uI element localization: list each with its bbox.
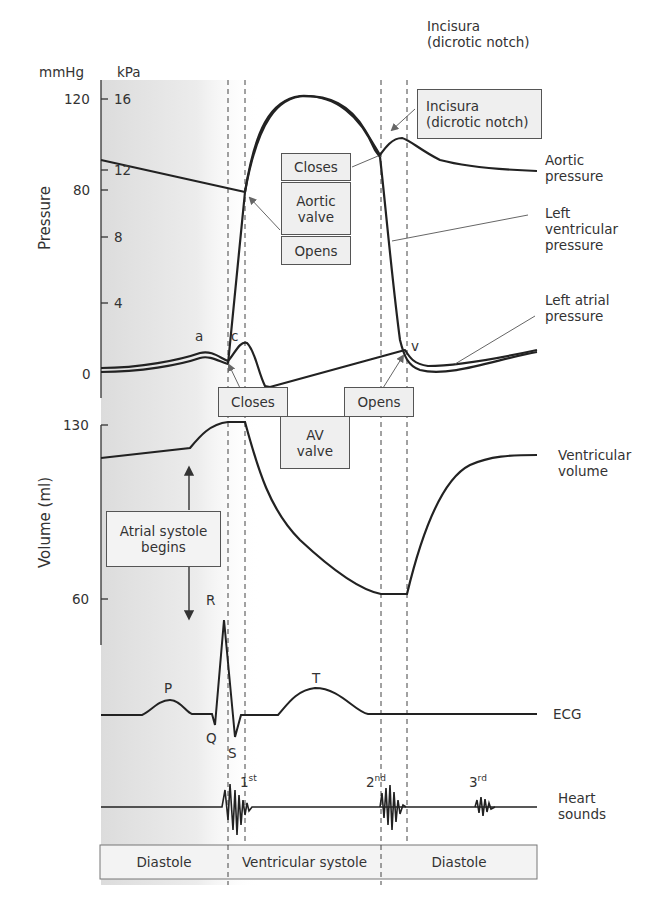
first-sound-label: 1st [240,770,257,790]
ecg-t-label: T [312,670,320,686]
phase-ventricular-systole: Ventricular systole [228,845,381,879]
la-label-pointer [455,316,535,364]
phase-diastole-1: Diastole [100,845,228,879]
third-sound-label: 3rd [469,770,487,790]
incisura-box: Incisura (dicrotic notch) [417,89,542,139]
volume-tick-60: 60 [72,591,89,607]
lv-label-pointer [392,215,528,241]
ecg-label: ECG [553,706,581,722]
kpa-tick-4: 4 [114,295,123,311]
lv-pressure-label: Left ventricular pressure [545,205,618,253]
incisura-pointer [392,109,415,130]
phase-diastole-2: Diastole [381,845,537,879]
wave-v-label: v [411,338,419,354]
kpa-tick-16: 16 [114,91,131,107]
mmhg-tick-80: 80 [73,182,90,198]
diastole-shade [101,80,261,885]
av-opens-pointer [383,356,403,388]
incisura-top-note: Incisura (dicrotic notch) [427,18,530,50]
pressure-axis-title: Pressure [36,186,54,250]
kpa-tick-8: 8 [114,229,123,245]
ecg-p-label: P [164,680,172,696]
mmhg-tick-120: 120 [64,91,90,107]
ecg-r-label: R [206,592,215,608]
aortic-valve-closes-box: Closes [281,153,351,181]
mmhg-unit-label: mmHg [39,64,84,80]
ecg-s-label: S [228,745,237,761]
ventricular-volume-label: Ventricular volume [558,447,631,479]
volume-axis-title: Volume (ml) [36,477,54,568]
heart-sounds-label: Heart sounds [558,790,606,822]
av-valve-box: AV valve [280,416,350,469]
volume-tick-130: 130 [63,417,89,433]
av-valve-closes-box: Closes [218,387,288,417]
ecg-q-label: Q [206,730,217,746]
kpa-tick-12: 12 [114,162,131,178]
aortic-valve-box: Aortic valve [281,182,351,235]
atrial-systole-box: Atrial systole begins [106,511,221,567]
wave-c-label: c [231,328,238,344]
aortic-closes-pointer [352,156,378,167]
mmhg-tick-0: 0 [82,366,91,382]
la-pressure-label: Left atrial pressure [545,292,610,324]
aortic-valve-opens-box: Opens [281,236,351,265]
aortic-pressure-label: Aortic pressure [545,152,603,184]
kpa-unit-label: kPa [117,64,141,80]
second-sound-label: 2nd [366,770,386,790]
wave-a-label: a [195,328,203,344]
av-valve-opens-box: Opens [344,387,414,417]
